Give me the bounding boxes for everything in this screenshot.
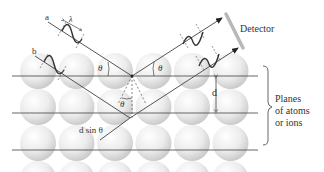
planes-label-line3: or ions [275,117,303,128]
atom [213,161,249,172]
atom [20,89,56,125]
wave-a-reflected [183,32,203,45]
planes-label-line2: of atoms [275,105,310,116]
atom [20,161,56,172]
atom [174,89,210,125]
atom [136,161,172,172]
theta-label-incident: θ [98,63,103,73]
ray-a-label: a [45,12,49,22]
atom [136,125,172,161]
atom [20,125,56,161]
planes-brace [263,66,272,145]
theta-label-reflected: θ [158,63,163,73]
wavelength-label: λ [68,15,73,24]
atom [59,161,95,172]
scattering-point [131,75,134,78]
planes-label-line1: Planes [275,93,301,104]
spacing-label: d [212,87,217,98]
atom [174,161,210,172]
bragg-diffraction-diagram: λ θ θ θ a b d d sin θ Detector Planes of… [0,0,324,172]
atom [213,89,249,125]
atom [174,125,210,161]
atom [97,161,133,172]
atom [59,89,95,125]
atom-lattice [20,53,249,172]
atom [136,53,172,89]
ray-b-label: b [32,46,37,56]
theta-label-lower: θ [120,99,125,109]
path-difference-label: d sin θ [79,125,103,135]
atom [213,125,249,161]
detector-label: Detector [240,23,275,34]
wave-a-incident [62,24,82,42]
